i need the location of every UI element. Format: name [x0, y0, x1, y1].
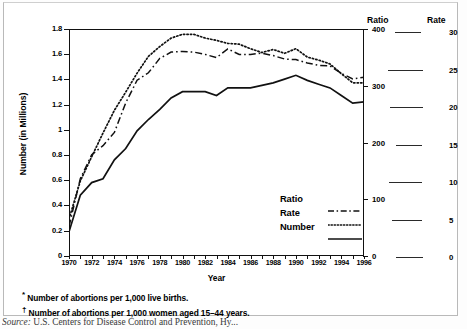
- ratio-tick-label: 400: [372, 25, 385, 34]
- footnote-row: * Number of abortions per 1,000 live bir…: [22, 289, 442, 304]
- y-tick-label: 1.4: [34, 75, 62, 83]
- y-axis-title: Number (in Millions): [18, 49, 28, 219]
- x-axis-title: Year: [69, 273, 364, 283]
- y-tick-label: 1: [34, 126, 62, 134]
- y-tick-mark: [64, 79, 69, 80]
- ratio-tick-label: 100: [372, 195, 385, 204]
- ratio-tick-label: 0: [372, 252, 376, 261]
- ratio-tick-mark: [363, 29, 368, 30]
- rate-tick-mark: [390, 107, 423, 108]
- figure-page: Number (in Millions) 1.8 1.6 1.4 1.2 1 0…: [0, 0, 467, 329]
- legend-item-ratio: Ratio: [280, 194, 362, 208]
- source-prefix: Source:: [2, 317, 31, 327]
- rate-tick-label: 15: [449, 141, 463, 150]
- y-tick-mark: [64, 130, 69, 131]
- rate-tick-label: 20: [449, 103, 463, 112]
- y-tick-mark: [64, 105, 69, 106]
- footnote-marker: *: [22, 290, 25, 299]
- legend-label-rate: Rate: [280, 208, 300, 218]
- y-tick-mark: [64, 231, 69, 232]
- y-tick-label: 1.2: [34, 101, 62, 109]
- chart-figure: Number (in Millions) 1.8 1.6 1.4 1.2 1 0…: [6, 4, 455, 312]
- rate-tick-mark: [389, 182, 422, 183]
- legend-swatch-dash-dot-icon: [328, 200, 362, 206]
- legend-swatch-solid-icon: [328, 228, 362, 234]
- ratio-tick-mark: [363, 143, 368, 144]
- chart-legend: Ratio Rate Number: [280, 194, 362, 236]
- rate-axis-title: Rate: [427, 15, 446, 25]
- rate-tick-mark: [392, 220, 422, 221]
- source-text: U.S. Centers for Disease Control and Pre…: [31, 317, 238, 327]
- y-tick-label: 0.8: [34, 151, 62, 159]
- y-tick-mark: [64, 54, 69, 55]
- source-line: Source: U.S. Centers for Disease Control…: [2, 317, 462, 328]
- rate-tick-mark: [395, 32, 421, 33]
- footnotes: * Number of abortions per 1,000 live bir…: [22, 289, 442, 320]
- series-rate-line: [69, 34, 364, 219]
- rate-tick-label: 5: [449, 216, 463, 225]
- y-tick-mark: [64, 205, 69, 206]
- legend-item-number: Number: [280, 222, 362, 236]
- legend-item-rate: Rate: [280, 208, 362, 222]
- ratio-tick-label: 200: [372, 139, 385, 148]
- y-tick-label: 1.6: [34, 50, 62, 58]
- legend-swatch-dotted-icon: [328, 214, 362, 220]
- y-tick-label: 1.8: [34, 25, 62, 33]
- y-tick-mark: [64, 155, 69, 156]
- ratio-tick-mark: [363, 256, 368, 257]
- ratio-tick-mark: [363, 199, 368, 200]
- ratio-axis-title: Ratio: [367, 15, 388, 25]
- y-tick-mark: [64, 180, 69, 181]
- rate-tick-label: 10: [449, 178, 463, 187]
- y-tick-label: 0.2: [34, 227, 62, 235]
- footnote-marker: †: [22, 305, 26, 314]
- y-tick-label: 0.6: [34, 176, 62, 184]
- y-tick-label: 0.4: [34, 201, 62, 209]
- legend-label-number: Number: [280, 222, 315, 232]
- rate-tick-mark: [396, 145, 422, 146]
- legend-label-ratio: Ratio: [280, 194, 303, 204]
- ratio-tick-mark: [363, 86, 368, 87]
- ratio-tick-label: 300: [372, 82, 385, 91]
- rate-tick-mark: [396, 257, 423, 258]
- footnote-text: Number of abortions per 1,000 live birth…: [27, 293, 188, 303]
- y-tick-mark: [64, 29, 69, 30]
- rate-tick-label: 0: [449, 253, 463, 262]
- rate-tick-label: 30: [449, 28, 463, 37]
- rate-tick-mark: [388, 70, 423, 71]
- rate-tick-label: 25: [449, 66, 463, 75]
